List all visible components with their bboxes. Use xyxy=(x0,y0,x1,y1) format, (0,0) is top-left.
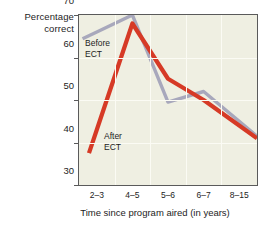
gridline-vertical xyxy=(186,15,187,185)
gridline-vertical xyxy=(115,15,116,185)
y-axis-tick-label: 50 xyxy=(50,81,74,91)
y-axis-tick-labels: 7060504030 xyxy=(50,0,74,172)
chart-figure: Percentage correct 7060504030 2–34–55–66… xyxy=(0,0,275,228)
x-axis-tick-label: 5–6 xyxy=(148,190,188,201)
gridline-vertical xyxy=(150,15,151,185)
x-axis-tick-label: 2–3 xyxy=(77,190,117,201)
x-axis-tick-label: 4–5 xyxy=(112,190,152,201)
y-axis-tick-label: 40 xyxy=(50,124,74,134)
gridline-vertical xyxy=(221,15,222,185)
series-label-after-ect: After ECT xyxy=(104,131,122,152)
x-axis-tick-label: 8–15 xyxy=(219,190,259,201)
x-axis-tick-labels: 2–34–55–66–78–15 xyxy=(78,190,258,202)
gridline-horizontal xyxy=(79,100,257,101)
y-axis-tick-label: 70 xyxy=(50,0,74,6)
series-label-before-ect: Before ECT xyxy=(85,38,110,59)
x-axis-title: Time since program aired (in years) xyxy=(40,207,270,219)
x-axis-tick-label: 6–7 xyxy=(184,190,224,201)
y-axis-tick-label: 30 xyxy=(50,166,74,176)
y-axis-tick-label: 60 xyxy=(50,39,74,49)
